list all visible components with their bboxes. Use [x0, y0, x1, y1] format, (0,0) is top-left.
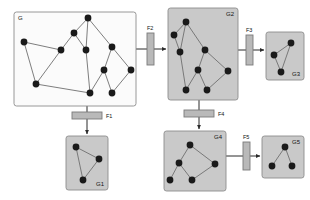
graph-node: [225, 68, 232, 75]
panel-background: [14, 12, 136, 106]
panels-layer: GG2G3G1G4G5: [14, 8, 304, 191]
graph-node: [83, 47, 90, 54]
graph-node: [96, 156, 103, 163]
graph-node: [288, 40, 295, 47]
filter-label-F5: F5: [243, 134, 249, 140]
graph-node: [183, 87, 190, 94]
graph-node: [271, 52, 278, 59]
graph-node: [21, 39, 28, 46]
graph-node: [195, 67, 202, 74]
panel-G1: G1: [66, 136, 108, 190]
filter-bar[interactable]: [72, 112, 102, 119]
graph-node: [101, 67, 108, 74]
filter-bar[interactable]: [184, 110, 214, 117]
filter-label-F3: F3: [246, 27, 252, 33]
graph-node: [109, 90, 116, 97]
filter-F4[interactable]: F4: [184, 110, 224, 117]
filter-bar[interactable]: [243, 142, 250, 170]
panel-label-G: G: [18, 15, 23, 21]
graph-node: [176, 160, 183, 167]
graph-node: [212, 161, 219, 168]
filter-label-F4: F4: [218, 111, 224, 117]
graph-node: [73, 144, 80, 151]
graph-node: [189, 177, 196, 184]
panel-label-G2: G2: [226, 11, 235, 17]
filter-label-F1: F1: [106, 113, 112, 119]
graph-node: [183, 19, 190, 26]
panel-G3: G3: [266, 32, 304, 80]
filter-F5[interactable]: F5: [243, 134, 250, 170]
graph-node: [187, 142, 194, 149]
panel-label-G3: G3: [292, 71, 301, 77]
filter-bar[interactable]: [246, 35, 253, 65]
panel-background: [164, 131, 226, 191]
graph-node: [109, 44, 116, 51]
graph-node: [167, 177, 174, 184]
graph-node: [80, 177, 87, 184]
graph-node: [202, 47, 209, 54]
panel-label-G1: G1: [96, 181, 105, 187]
graph-node: [87, 90, 94, 97]
graph-node: [128, 67, 135, 74]
graph-node: [171, 32, 178, 39]
graph-node: [33, 81, 40, 88]
filter-label-F2: F2: [147, 25, 153, 31]
diagram-canvas: GG2G3G1G4G5 F1F2F3F4F5: [0, 0, 310, 200]
filter-F1[interactable]: F1: [72, 112, 112, 119]
panel-G5: G5: [262, 136, 304, 178]
graph-node: [204, 87, 211, 94]
panel-G: G: [14, 12, 136, 106]
panel-label-G5: G5: [292, 139, 301, 145]
panel-G4: G4: [164, 131, 226, 191]
graph-node: [278, 69, 285, 76]
panel-G2: G2: [168, 8, 238, 100]
graph-decomposition-diagram: GG2G3G1G4G5 F1F2F3F4F5: [0, 0, 310, 200]
graph-node: [282, 144, 289, 151]
filter-F2[interactable]: F2: [147, 25, 154, 65]
graph-node: [85, 15, 92, 22]
graph-node: [58, 47, 65, 54]
graph-node: [71, 30, 78, 37]
graph-node: [177, 49, 184, 56]
graph-node: [289, 163, 296, 170]
filter-F3[interactable]: F3: [246, 27, 253, 65]
panel-label-G4: G4: [214, 134, 223, 140]
filter-bar[interactable]: [147, 33, 154, 65]
graph-node: [269, 163, 276, 170]
